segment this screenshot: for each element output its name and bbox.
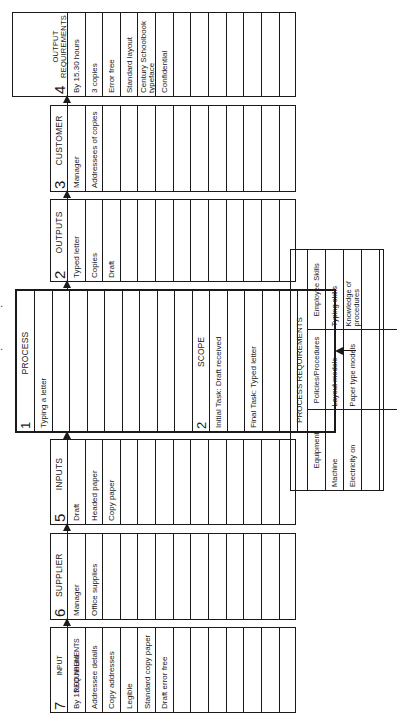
table-cell: Knowledge of procedures bbox=[344, 250, 362, 330]
list-item bbox=[103, 534, 121, 619]
list-item bbox=[103, 106, 121, 191]
inputs-box: 5 INPUTS DraftHeaded paperCopy paper bbox=[50, 439, 296, 525]
list-item: Headed paper bbox=[86, 440, 104, 524]
list-item bbox=[245, 106, 263, 191]
list-item: Draft bbox=[103, 200, 121, 281]
supplier-box: 6 SUPPLIER ManagerOffice supplies bbox=[50, 533, 296, 620]
list-item bbox=[156, 440, 174, 524]
list-item bbox=[121, 534, 139, 619]
table-cell: Machine bbox=[326, 410, 344, 490]
box-header: 4 OUTPUT REQUIREMENTS bbox=[51, 13, 68, 96]
decorative-mark: · bbox=[0, 305, 7, 308]
table-row bbox=[362, 250, 380, 490]
process-row bbox=[140, 291, 158, 431]
list-item bbox=[156, 106, 174, 191]
table-cell: Paper type models bbox=[344, 330, 362, 410]
list-item bbox=[262, 13, 280, 96]
list-item bbox=[227, 440, 245, 524]
box-title: CUSTOMER bbox=[51, 108, 68, 173]
flow-arrow-6-5 bbox=[67, 525, 68, 533]
list-item: Copy addresses bbox=[103, 628, 121, 712]
box-number: 2 bbox=[51, 271, 68, 279]
customer-box: 3 CUSTOMER ManagerAddressees of copies bbox=[50, 105, 296, 192]
box-title: SUPPLIER bbox=[51, 536, 68, 597]
list-item bbox=[209, 534, 227, 619]
list-item bbox=[245, 200, 263, 281]
scope-row bbox=[263, 291, 281, 431]
table-cell bbox=[362, 410, 380, 490]
arrowhead-icon bbox=[63, 280, 71, 288]
process-box: 1 PROCESS Typing a letter 2 SCOPE Initia… bbox=[15, 289, 336, 433]
process-row bbox=[123, 291, 141, 431]
list-item: Draft bbox=[68, 440, 86, 524]
scope-row bbox=[228, 291, 246, 431]
list-item bbox=[209, 440, 227, 524]
list-item bbox=[209, 628, 227, 712]
list-item: Confidential bbox=[156, 13, 174, 96]
arrowhead-icon bbox=[63, 95, 71, 103]
list-item: Legible bbox=[121, 628, 139, 712]
list-item: Typed letter bbox=[68, 200, 86, 281]
box-number: 5 bbox=[51, 514, 68, 522]
list-item bbox=[156, 200, 174, 281]
list-item bbox=[262, 440, 280, 524]
process-row bbox=[88, 291, 106, 431]
list-item: 3 copies bbox=[86, 13, 104, 96]
table-row: Machine Layout models Typing skills bbox=[326, 250, 344, 490]
list-item: By 15.30 hours bbox=[68, 13, 86, 96]
list-item bbox=[245, 534, 263, 619]
list-item bbox=[227, 106, 245, 191]
box-header: 3 CUSTOMER bbox=[51, 106, 68, 191]
flow-arrow-2-3 bbox=[67, 192, 68, 199]
arrowhead-icon bbox=[63, 618, 71, 626]
list-item: Addressees of copies bbox=[86, 106, 104, 191]
list-item bbox=[174, 440, 192, 524]
box-header: 7 INPUT REQUIREMENTS bbox=[51, 628, 68, 712]
box-header: 5 INPUTS bbox=[51, 440, 68, 524]
list-item: Copy paper bbox=[103, 440, 121, 524]
column-header-equipment: Equipment bbox=[308, 410, 326, 490]
list-item bbox=[192, 13, 210, 96]
box-number: 3 bbox=[51, 181, 68, 189]
process-row bbox=[70, 291, 88, 431]
box-header: 1 PROCESS bbox=[17, 291, 35, 431]
list-item bbox=[192, 106, 210, 191]
list-item bbox=[280, 628, 298, 712]
process-row bbox=[105, 291, 123, 431]
scope-header: 2 SCOPE bbox=[193, 291, 211, 431]
scope-title: SCOPE bbox=[193, 291, 210, 413]
list-item bbox=[174, 106, 192, 191]
table-row bbox=[380, 250, 397, 490]
list-item bbox=[209, 13, 227, 96]
list-item bbox=[139, 106, 157, 191]
list-item bbox=[245, 628, 263, 712]
process-requirements-table: PROCESS REQUIREMENTS Equipment Policies/… bbox=[290, 249, 384, 491]
list-item: Standard copy paper bbox=[139, 628, 157, 712]
box-title: PROCESS bbox=[17, 293, 34, 413]
box-number: 1 bbox=[17, 422, 34, 429]
box-number: 4 bbox=[51, 86, 68, 94]
arrowhead-icon bbox=[63, 523, 71, 531]
list-item bbox=[174, 534, 192, 619]
list-item bbox=[174, 628, 192, 712]
table-cell bbox=[380, 410, 397, 490]
process-row: Typing a letter bbox=[35, 291, 53, 431]
table-cell: Layout models bbox=[326, 330, 344, 410]
list-item: Draft error free bbox=[156, 628, 174, 712]
list-item bbox=[192, 200, 210, 281]
list-item bbox=[192, 440, 210, 524]
list-item bbox=[139, 440, 157, 524]
list-item: Manager bbox=[68, 534, 86, 619]
list-item bbox=[227, 534, 245, 619]
flow-arrow-3-4 bbox=[67, 97, 68, 105]
box-header: 2 OUTPUTS bbox=[51, 200, 68, 281]
scope-number: 2 bbox=[193, 422, 211, 429]
list-item bbox=[245, 440, 263, 524]
list-item bbox=[245, 13, 263, 96]
column-header-skills: Employee Skills bbox=[308, 250, 326, 330]
list-item bbox=[227, 628, 245, 712]
table-cell: Electricity on bbox=[344, 410, 362, 490]
decorative-mark: · bbox=[0, 348, 7, 351]
scope-row: Final Task: Typed letter bbox=[245, 291, 263, 431]
